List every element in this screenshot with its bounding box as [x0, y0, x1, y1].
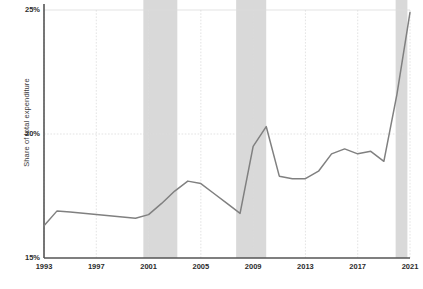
data-line	[44, 12, 410, 225]
recession-band	[236, 0, 266, 258]
gridlines	[44, 10, 410, 258]
expenditure-share-line	[44, 12, 410, 225]
axis-lines	[44, 4, 410, 258]
recession-bands	[143, 0, 407, 258]
